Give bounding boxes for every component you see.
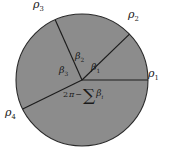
formula-pi: π — [69, 91, 74, 99]
label-beta1: β1 — [91, 62, 100, 75]
label-rho4: ρ4 — [5, 107, 16, 121]
formula-two: 2 — [63, 91, 68, 99]
rho2-subscript: 2 — [134, 15, 138, 23]
reflex-angle-formula: 2π − ∑ βi — [63, 88, 103, 102]
formula-beta-index: i — [101, 94, 103, 100]
label-rho3: ρ3 — [33, 0, 44, 13]
beta1-subscript: 1 — [97, 68, 101, 74]
label-rho2: ρ2 — [128, 9, 139, 23]
beta3-subscript: 3 — [65, 71, 69, 77]
formula-minus: − — [75, 91, 82, 99]
circle-angle-diagram — [0, 0, 170, 161]
rho4-subscript: 4 — [11, 113, 15, 121]
formula-beta: βi — [96, 89, 103, 100]
label-beta3: β3 — [59, 65, 68, 78]
rho1-subscript: 1 — [154, 74, 158, 82]
summation-sigma-icon: ∑ — [83, 89, 95, 103]
rho3-subscript: 3 — [39, 5, 43, 13]
label-beta2: β2 — [75, 51, 84, 64]
beta2-subscript: 2 — [81, 57, 85, 63]
label-rho1: ρ1 — [148, 68, 159, 82]
